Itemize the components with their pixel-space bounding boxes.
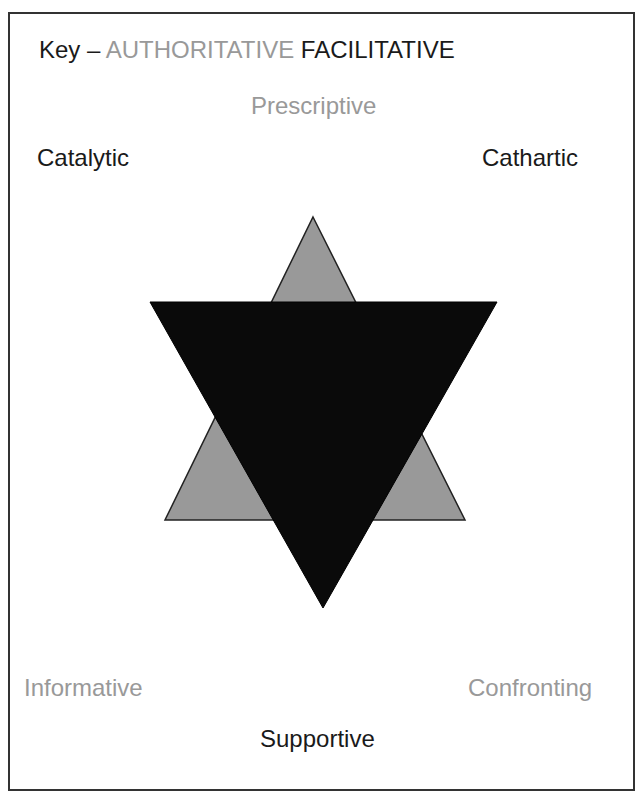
label-supportive: Supportive [260,727,375,751]
label-informative: Informative [24,676,143,700]
label-confronting: Confronting [468,676,592,700]
